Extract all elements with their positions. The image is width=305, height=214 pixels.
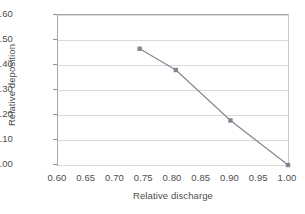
y-tick-label: 0.40 xyxy=(0,58,13,69)
data-point-marker xyxy=(137,47,141,51)
y-tick-label: 0.60 xyxy=(0,8,13,19)
gridline xyxy=(58,165,288,166)
y-tick-label: 0.30 xyxy=(0,83,13,94)
y-tick-label: 0.10 xyxy=(0,133,13,144)
data-point-marker xyxy=(174,68,178,72)
series-line xyxy=(140,49,288,165)
plot-area xyxy=(57,14,289,166)
x-tick-label: 1.00 xyxy=(267,172,305,183)
y-tick-label: 0.20 xyxy=(0,108,13,119)
x-axis-title: Relative discharge xyxy=(57,190,289,201)
data-point-marker xyxy=(286,163,290,167)
chart-figure: Relative deposition Relative discharge 0… xyxy=(0,0,305,214)
data-point-marker xyxy=(228,118,232,122)
y-tick-label: 0.00 xyxy=(0,158,13,169)
data-series-layer xyxy=(58,15,288,165)
y-tick-label: 0.50 xyxy=(0,33,13,44)
